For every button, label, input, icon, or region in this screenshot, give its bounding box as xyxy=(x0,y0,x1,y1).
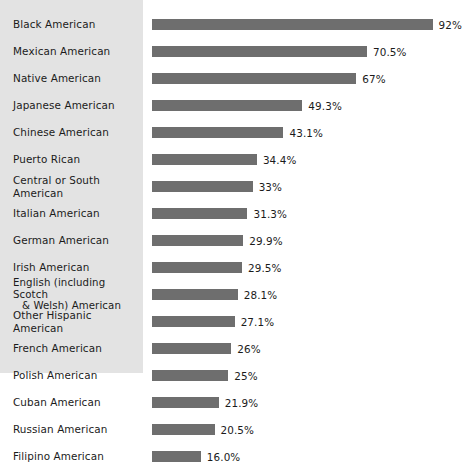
category-label: Chinese American xyxy=(13,119,139,146)
chart-row: Filipino American16.0% xyxy=(0,443,474,466)
chart-row: Mexican American70.5% xyxy=(0,38,474,65)
chart-row: German American29.9% xyxy=(0,227,474,254)
bar xyxy=(152,154,257,165)
chart-row: Puerto Rican34.4% xyxy=(0,146,474,173)
bar xyxy=(152,181,253,192)
category-label: German American xyxy=(13,227,139,254)
chart-row: Native American67% xyxy=(0,65,474,92)
bar xyxy=(152,73,356,84)
bar-value-label: 31.3% xyxy=(253,208,287,220)
bar xyxy=(152,289,238,300)
bar-value-label: 27.1% xyxy=(241,316,275,328)
bar xyxy=(152,46,367,57)
category-label: English (including Scotch& Welsh) Americ… xyxy=(13,281,139,308)
category-label: Japanese American xyxy=(13,92,139,119)
chart-row: Japanese American49.3% xyxy=(0,92,474,119)
bar-value-label: 70.5% xyxy=(373,46,407,58)
bar xyxy=(152,316,235,327)
category-label: Other Hispanic American xyxy=(13,308,139,335)
bar xyxy=(152,343,231,354)
chart-row: Central or South American33% xyxy=(0,173,474,200)
category-label: Black American xyxy=(13,11,139,38)
bar xyxy=(152,262,242,273)
category-label: Native American xyxy=(13,65,139,92)
bar xyxy=(152,370,228,381)
chart-row: French American26% xyxy=(0,335,474,362)
chart-row: Cuban American21.9% xyxy=(0,389,474,416)
bar-value-label: 21.9% xyxy=(225,397,259,409)
bar-value-label: 25% xyxy=(234,370,257,382)
category-label: Mexican American xyxy=(13,38,139,65)
bar-value-label: 28.1% xyxy=(244,289,278,301)
bar xyxy=(152,235,243,246)
chart-row: Russian American20.5% xyxy=(0,416,474,443)
bar-value-label: 33% xyxy=(259,181,282,193)
category-label: Italian American xyxy=(13,200,139,227)
chart-row: English (including Scotch& Welsh) Americ… xyxy=(0,281,474,308)
category-label: Central or South American xyxy=(13,173,139,200)
chart-row: Black American92% xyxy=(0,11,474,38)
category-label: Polish American xyxy=(13,362,139,389)
chart-row: Polish American25% xyxy=(0,362,474,389)
bar-value-label: 34.4% xyxy=(263,154,297,166)
bar-value-label: 16.0% xyxy=(207,451,241,463)
bar xyxy=(152,127,283,138)
category-label: Filipino American xyxy=(13,443,139,466)
category-label: Russian American xyxy=(13,416,139,443)
bar-value-label: 49.3% xyxy=(308,100,342,112)
chart-row: Chinese American43.1% xyxy=(0,119,474,146)
bar-value-label: 29.5% xyxy=(248,262,282,274)
bar xyxy=(152,451,201,462)
category-label: Cuban American xyxy=(13,389,139,416)
bar xyxy=(152,208,247,219)
chart-row: Italian American31.3% xyxy=(0,200,474,227)
bar-value-label: 92% xyxy=(439,19,462,31)
chart-row: Other Hispanic American27.1% xyxy=(0,308,474,335)
bar xyxy=(152,397,219,408)
bar-value-label: 43.1% xyxy=(289,127,323,139)
bar-value-label: 20.5% xyxy=(221,424,255,436)
bar xyxy=(152,100,302,111)
bar xyxy=(152,424,215,435)
category-label: Puerto Rican xyxy=(13,146,139,173)
category-label: French American xyxy=(13,335,139,362)
bar xyxy=(152,19,433,30)
bar-value-label: 26% xyxy=(237,343,260,355)
bar-value-label: 29.9% xyxy=(249,235,283,247)
category-label-line-1: English (including Scotch xyxy=(13,277,139,300)
bar-value-label: 67% xyxy=(362,73,385,85)
